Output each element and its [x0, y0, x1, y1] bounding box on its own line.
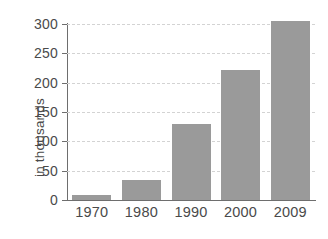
y-axis-tick-label: 250 — [18, 45, 58, 61]
x-axis-line — [66, 200, 316, 201]
y-axis-tick — [62, 141, 67, 142]
bar — [122, 180, 161, 200]
y-axis-tick-label: 0 — [18, 192, 58, 208]
x-axis-tick-labels: 19701980199020002009 — [67, 204, 315, 228]
bar — [172, 124, 211, 200]
bar — [221, 70, 260, 200]
y-axis-tick — [62, 83, 67, 84]
y-axis-tick — [62, 200, 67, 201]
bar-chart-figure: in thousands 050100150200250300 19701980… — [0, 0, 328, 239]
y-axis-tick — [62, 112, 67, 113]
x-axis-tick-label: 1990 — [174, 204, 207, 220]
bar-series — [67, 24, 315, 200]
bar — [271, 21, 310, 200]
x-axis-tick-label: 2009 — [274, 204, 307, 220]
y-axis-tick-label: 100 — [18, 133, 58, 149]
y-axis-tick-label: 150 — [18, 104, 58, 120]
x-axis-tick-label: 2000 — [224, 204, 257, 220]
y-axis-tick — [62, 171, 67, 172]
y-axis-tick-label: 200 — [18, 75, 58, 91]
x-axis-tick-label: 1980 — [125, 204, 158, 220]
y-axis-tick — [62, 53, 67, 54]
y-axis-tick — [62, 24, 67, 25]
y-axis-tick-label: 50 — [18, 163, 58, 179]
y-axis-tick-labels: 050100150200250300 — [14, 0, 58, 239]
x-axis-tick-label: 1970 — [75, 204, 108, 220]
y-axis-tick-label: 300 — [18, 16, 58, 32]
